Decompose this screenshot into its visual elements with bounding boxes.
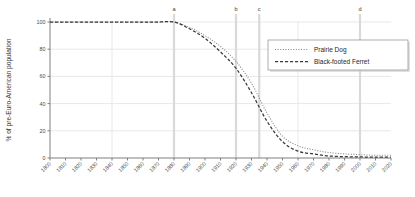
marker-label-b: b	[234, 6, 237, 12]
legend-label: Black-footed Ferret	[314, 58, 369, 65]
x-tick-label: 1870	[148, 160, 161, 173]
legend-box	[268, 40, 408, 70]
x-tick-label: 1880	[163, 160, 176, 173]
legend-label: Prairie Dog	[314, 46, 347, 54]
chart-legend[interactable]: Prairie DogBlack-footed Ferret	[268, 40, 410, 72]
y-tick-label: 0	[43, 155, 46, 161]
x-tick-label: 1980	[318, 160, 331, 173]
x-tick-label: 1890	[179, 160, 192, 173]
y-tick-label: 100	[37, 19, 46, 25]
chart-container: 020406080100 180018101820183018401850186…	[0, 0, 415, 197]
x-tick-label: 1840	[101, 160, 114, 173]
y-tick-label: 80	[40, 46, 46, 52]
y-tick-label: 20	[40, 128, 46, 134]
y-axis-title: % of pre-Euro-American population	[5, 38, 13, 141]
x-tick-label: 1810	[55, 160, 68, 173]
y-axis-ticks: 020406080100	[37, 19, 51, 161]
x-tick-label: 1800	[39, 160, 52, 173]
x-tick-label: 1850	[117, 160, 130, 173]
y-tick-label: 60	[40, 73, 46, 79]
x-tick-label: 1860	[132, 160, 145, 173]
x-tick-label: 1950	[272, 160, 285, 173]
marker-labels: abcd	[172, 6, 361, 12]
x-tick-label: 2010	[365, 160, 378, 173]
x-tick-label: 1910	[210, 160, 223, 173]
x-tick-label: 1930	[241, 160, 254, 173]
x-tick-label: 2020	[380, 160, 393, 173]
axes	[50, 18, 391, 158]
x-tick-label: 1830	[86, 160, 99, 173]
y-tick-label: 40	[40, 101, 46, 107]
x-tick-label: 1920	[225, 160, 238, 173]
x-tick-label: 1990	[334, 160, 347, 173]
y-axis-label-text: % of pre-Euro-American population	[5, 38, 13, 141]
marker-label-a: a	[172, 6, 176, 12]
marker-label-d: d	[358, 6, 361, 12]
x-tick-label: 1960	[287, 160, 300, 173]
x-tick-label: 2000	[349, 160, 362, 173]
x-tick-label: 1820	[70, 160, 83, 173]
x-tick-label: 1970	[303, 160, 316, 173]
x-tick-label: 1940	[256, 160, 269, 173]
x-axis-ticks: 1800181018201830184018501860187018801890…	[39, 158, 393, 173]
population-decline-line-chart: 020406080100 180018101820183018401850186…	[0, 0, 415, 197]
x-tick-label: 1900	[194, 160, 207, 173]
marker-label-c: c	[258, 6, 261, 12]
